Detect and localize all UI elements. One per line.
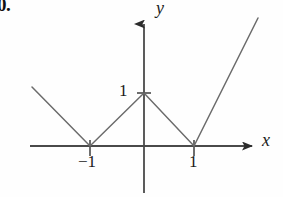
graph-plot: [0, 0, 283, 197]
y-tick-label-1: 1: [119, 82, 128, 99]
function-curve: [32, 18, 258, 146]
figure-container: 0. y x 1 −1 1: [0, 0, 283, 197]
problem-number: 0.: [0, 0, 10, 14]
x-tick-label-positive-1: 1: [189, 153, 198, 170]
y-axis-label: y: [156, 0, 164, 17]
x-tick-label-negative-1: −1: [78, 153, 96, 170]
x-axis-label: x: [262, 131, 270, 149]
